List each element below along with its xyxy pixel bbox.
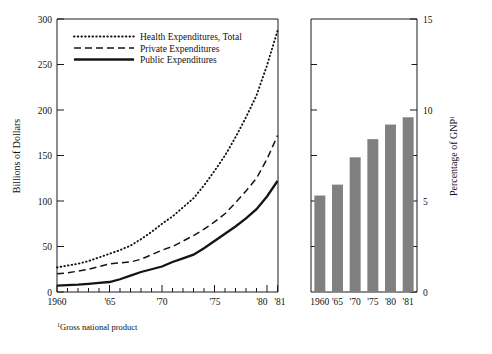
bar-x-tick-label: '75: [367, 297, 378, 307]
bar-chart-x-tick-labels: 1960'65'70'75'80'81: [310, 297, 414, 307]
x-tick-label: '81: [274, 297, 285, 307]
bar-y-tick-label: 5: [423, 197, 428, 207]
series-line-health-expenditures-total: [57, 31, 278, 268]
figure-footnote: 1Gross national product: [57, 322, 138, 333]
bar-chart-y-tick-labels: 15 10 5 0: [423, 15, 433, 298]
bar: [367, 139, 378, 292]
bar-chart-y-axis-title: Percentage of GNP1: [448, 116, 459, 196]
series-line-private-expenditures: [57, 135, 278, 273]
line-chart-legend: Health Expenditures, Total Private Expen…: [74, 32, 242, 65]
health-expenditures-figure: 300 250 200 150 100 50 0 Billions of Dol…: [0, 0, 492, 354]
bar-x-tick-label: '81: [403, 297, 414, 307]
legend-label-public: Public Expenditures: [140, 55, 217, 65]
line-chart-x-tick-labels: 1960 '65 '70 '75 '80 '81: [48, 297, 286, 307]
legend-label-private: Private Expenditures: [140, 44, 220, 54]
series-line-public-expenditures: [57, 181, 278, 286]
line-chart-y-tick-labels: 300 250 200 150 100 50 0: [38, 15, 53, 298]
footnote-text: Gross national product: [60, 322, 138, 332]
bar-x-tick-label: '65: [332, 297, 343, 307]
bar-group: [314, 117, 413, 292]
y-tick-label: 150: [38, 151, 53, 161]
line-chart-panel: 300 250 200 150 100 50 0 Billions of Dol…: [11, 15, 286, 333]
x-tick-label: 1960: [48, 297, 67, 307]
bar-chart-y-axis-title-sup: 1: [449, 116, 455, 119]
y-tick-label: 250: [38, 60, 53, 70]
bar: [314, 196, 325, 292]
bar-chart-panel: 15 10 5 0 Percentage of GNP1 1960'65'70'…: [310, 15, 459, 308]
x-tick-label: '65: [104, 297, 115, 307]
bar: [332, 185, 343, 292]
x-tick-label: '80: [256, 297, 267, 307]
bar-x-tick-label: '70: [350, 297, 361, 307]
bar: [403, 117, 414, 292]
bar: [385, 125, 396, 292]
legend-label-total: Health Expenditures, Total: [140, 32, 242, 42]
y-tick-label: 50: [43, 242, 53, 252]
bar-x-tick-label: '80: [385, 297, 396, 307]
bar-y-tick-label: 10: [423, 106, 433, 116]
bar-y-tick-label: 0: [423, 288, 428, 298]
x-tick-label: '70: [156, 297, 167, 307]
line-chart-y-axis-title: Billions of Dollars: [11, 119, 22, 194]
svg-text:1Gross national product: 1Gross national product: [57, 322, 138, 333]
figure-canvas: 300 250 200 150 100 50 0 Billions of Dol…: [0, 0, 492, 354]
bar-y-tick-label: 15: [423, 15, 433, 25]
x-tick-label: '75: [209, 297, 220, 307]
y-tick-label: 0: [47, 288, 52, 298]
line-chart-x-ticks: [57, 285, 278, 292]
y-tick-label: 200: [38, 106, 53, 116]
y-tick-label: 100: [38, 197, 53, 207]
y-tick-label: 300: [38, 15, 53, 25]
bar: [350, 157, 361, 292]
line-chart-y-ticks: [57, 19, 64, 292]
bar-x-tick-label: 1960: [310, 297, 329, 307]
bar-chart-y-axis-title-text: Percentage of GNP: [448, 118, 459, 196]
